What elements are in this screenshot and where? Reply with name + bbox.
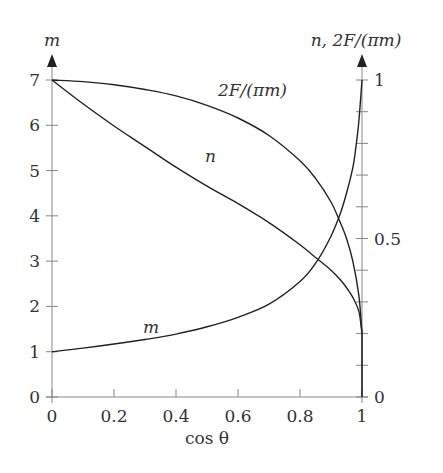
left-y-tick-label: 2 [29,296,40,316]
left-y-tick-label: 0 [29,387,40,407]
curves [52,80,362,397]
left-y-tick-label: 1 [29,342,40,362]
curve-label-n: n [205,146,216,166]
x-tick-label: 1 [357,406,368,426]
x-tick-label: 0.4 [162,406,189,426]
left-y-tick-label: 3 [29,251,40,271]
curve-n [52,80,362,334]
curve-2f-m- [52,80,362,334]
left-y-tick-label: 4 [29,206,40,226]
x-tick-label: 0.8 [286,406,313,426]
left-axis-title: m [44,30,60,50]
x-axis-title: cos θ [185,428,229,448]
x-tick-label: 0.6 [224,406,251,426]
x-tick-label: 0 [47,406,58,426]
x-tick-label: 0.2 [100,406,127,426]
right-axis-arrow-icon [357,54,367,67]
curve-label-m: m [143,317,159,337]
left-y-tick-label: 6 [29,115,40,135]
curve-m [52,80,362,352]
left-axis-arrow-icon [47,54,57,67]
right-y-tick-label: 0.5 [374,229,401,249]
curve-label-f: 2F/(πm) [217,80,287,100]
tick-labels: 00.20.40.60.810123456700.51 [29,70,401,426]
right-axis-title: n, 2F/(πm) [311,30,402,50]
axes [46,66,368,403]
right-y-tick-label: 0 [374,387,385,407]
ticks [46,80,368,397]
right-y-tick-label: 1 [374,70,385,90]
chart: 00.20.40.60.810123456700.51 m n, 2F/(πm)… [0,0,443,473]
left-y-tick-label: 5 [29,161,40,181]
left-y-tick-label: 7 [29,70,40,90]
